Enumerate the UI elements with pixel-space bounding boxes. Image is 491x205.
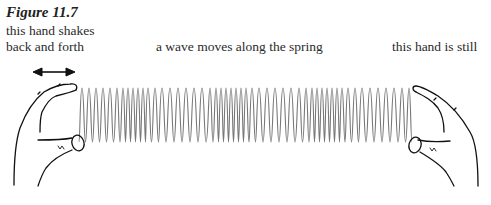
left-hand-icon xyxy=(14,84,86,186)
right-hand-icon xyxy=(407,86,478,186)
spring-diagram xyxy=(0,0,491,205)
spring-coil xyxy=(79,88,412,142)
double-arrow-icon xyxy=(33,68,75,76)
